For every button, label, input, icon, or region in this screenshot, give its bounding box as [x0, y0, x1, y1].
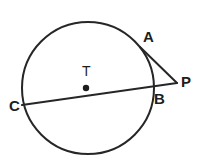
geometry-figure: A P B C T: [0, 0, 199, 166]
center-label-t: T: [82, 64, 91, 78]
geometry-canvas: [0, 0, 199, 166]
tangent-line-AP: [140, 47, 177, 83]
point-label-p: P: [181, 74, 191, 89]
point-label-a: A: [143, 29, 154, 44]
center-dot: [83, 85, 89, 91]
point-label-c: C: [9, 98, 20, 113]
point-label-b: B: [154, 91, 165, 106]
